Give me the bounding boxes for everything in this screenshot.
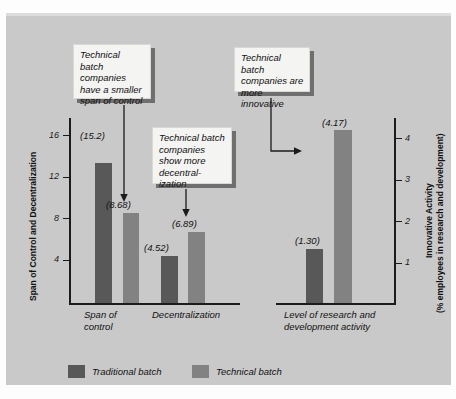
- legend-swatch-technical-batch: [192, 365, 209, 378]
- legend-label-traditional-batch: Traditional batch: [92, 366, 162, 377]
- figure-screenshot: 4 8 12 16 Span of Control and Decentrali…: [0, 0, 456, 399]
- figure-panel: 4 8 12 16 Span of Control and Decentrali…: [6, 13, 451, 385]
- arrow-span-of-control: [6, 13, 451, 385]
- legend-label-technical-batch: Technical batch: [216, 366, 282, 377]
- legend-swatch-traditional-batch: [68, 365, 85, 378]
